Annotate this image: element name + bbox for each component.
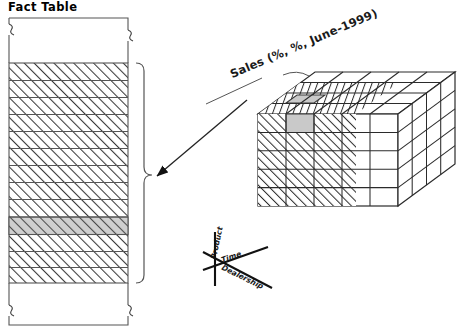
- right-curly-brace: [136, 63, 152, 283]
- break-mark-bottom-right: [128, 305, 133, 316]
- diagram-canvas: [0, 0, 459, 333]
- axes-legend: [203, 232, 272, 288]
- cube-highlighted-cell-front: [286, 114, 314, 133]
- data-cube: [258, 72, 455, 206]
- break-mark-top-right: [128, 30, 133, 41]
- fact-table-highlighted-row: [9, 217, 128, 235]
- fact-table-group: [9, 18, 133, 325]
- fact-table-rows: [9, 63, 128, 283]
- break-mark-top-left: [9, 24, 14, 35]
- figure-root: Fact Table Sales (%, %, June-1999) Produ…: [0, 0, 459, 333]
- axis-time-line: [203, 247, 268, 270]
- cube-to-table-arrow: [157, 100, 247, 176]
- break-mark-bottom-left: [9, 305, 14, 316]
